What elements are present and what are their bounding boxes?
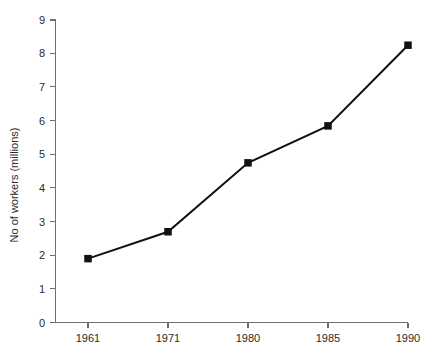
x-tick-label-1980: 1980 xyxy=(236,332,260,344)
data-point-1971 xyxy=(164,228,172,236)
x-tick-label-1985: 1985 xyxy=(316,332,340,344)
y-tick-label-8: 8 xyxy=(39,47,45,59)
y-tick-label-7: 7 xyxy=(39,81,45,93)
data-point-1990 xyxy=(404,41,412,49)
x-tick-label-1990: 1990 xyxy=(396,332,420,344)
y-tick-label-3: 3 xyxy=(39,216,45,228)
data-point-1961 xyxy=(84,255,92,263)
x-tick-label-1961: 1961 xyxy=(76,332,100,344)
x-tick-label-1971: 1971 xyxy=(156,332,180,344)
data-point-1985 xyxy=(324,122,332,130)
chart-background xyxy=(0,0,430,358)
y-tick-label-5: 5 xyxy=(39,148,45,160)
y-axis-title: No of workers (millions) xyxy=(8,128,20,243)
y-tick-label-0: 0 xyxy=(39,317,45,329)
y-tick-label-6: 6 xyxy=(39,115,45,127)
chart-canvas: 0 1 2 3 4 5 6 7 8 9 1961 1971 xyxy=(0,0,430,358)
data-point-1980 xyxy=(244,159,252,167)
y-tick-label-4: 4 xyxy=(39,182,45,194)
y-tick-label-2: 2 xyxy=(39,249,45,261)
line-chart: 0 1 2 3 4 5 6 7 8 9 1961 1971 xyxy=(0,0,430,358)
y-tick-label-1: 1 xyxy=(39,283,45,295)
y-tick-label-9: 9 xyxy=(39,14,45,26)
